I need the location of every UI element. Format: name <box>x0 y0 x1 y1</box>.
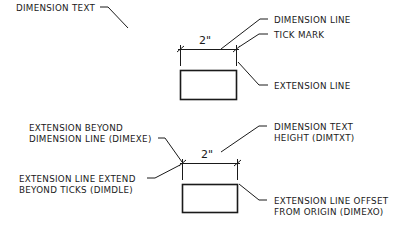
label-dimtxt-2: HEIGHT (DIMTXT) <box>274 132 354 143</box>
leader-dimtxt <box>221 126 267 152</box>
bottom-dimension-value: 2" <box>201 148 213 161</box>
bottom-extension-lines <box>183 159 238 180</box>
top-rectangle <box>181 71 237 100</box>
label-dimension-text: DIMENSION TEXT <box>16 2 95 13</box>
top-dimension-value: 2" <box>199 34 211 47</box>
leader-dimdle <box>147 165 180 178</box>
label-extension-line: EXTENSION LINE <box>274 80 350 91</box>
label-dimexo-1: EXTENSION LINE OFFSET <box>274 195 388 206</box>
label-dimdle-1: EXTENSION LINE EXTEND <box>19 173 136 184</box>
leader-dimexe <box>158 138 182 162</box>
leader-dimension-text <box>100 7 128 28</box>
label-tick-mark: TICK MARK <box>274 29 324 40</box>
leader-dimexo <box>239 184 267 200</box>
label-dimtxt-1: DIMENSION TEXT <box>274 121 353 132</box>
top-extension-lines <box>181 45 237 66</box>
leader-tick-mark <box>239 34 268 47</box>
label-dimexo-2: FROM ORIGIN (DIMEXO) <box>274 206 384 217</box>
label-dimexe-2: DIMENSION LINE (DIMEXE) <box>29 133 152 144</box>
label-dimexe-1: EXTENSION BEYOND <box>29 122 123 133</box>
dimension-diagram: 2" 2" DIMENSION TEXT DIMENSION LINE TICK… <box>0 0 419 232</box>
leader-extension-line <box>238 62 268 85</box>
label-dimdle-2: BEYOND TICKS (DIMDLE) <box>19 184 133 195</box>
label-dimension-line: DIMENSION LINE <box>274 14 351 25</box>
bottom-rectangle <box>183 185 238 213</box>
